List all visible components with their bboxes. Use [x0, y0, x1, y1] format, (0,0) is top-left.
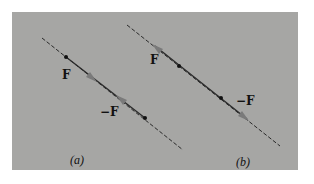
label-neg-f-b: −F: [236, 95, 255, 107]
application-point-a1: [64, 55, 68, 59]
application-point-a2: [143, 116, 147, 120]
application-point-b1: [177, 64, 181, 68]
line-of-action-a: [42, 38, 183, 150]
caption-b: (b): [236, 156, 250, 168]
force-pair-diagram: F −F F −F (a) (b): [0, 0, 314, 184]
label-neg-f-a: −F: [100, 106, 119, 118]
label-f-a: F: [62, 69, 71, 81]
caption-a: (a): [70, 154, 84, 166]
line-of-action-b: [127, 25, 280, 146]
application-point-b2: [219, 96, 223, 100]
label-f-b: F: [150, 54, 159, 66]
force-segment-b: [155, 46, 247, 119]
diagram-graphics: [0, 0, 314, 184]
